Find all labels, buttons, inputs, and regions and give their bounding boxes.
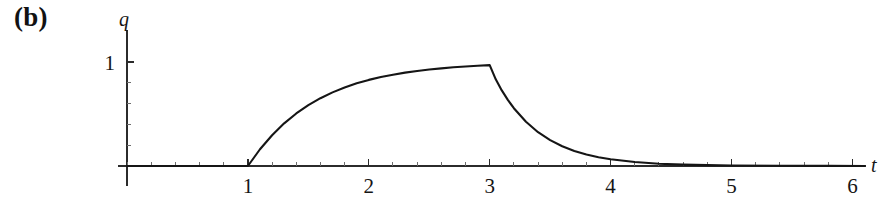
axes-group (118, 30, 866, 186)
x-tick-label: 5 (726, 174, 737, 198)
x-tick-label: 6 (847, 174, 858, 198)
y-axis-ticks (127, 62, 134, 145)
plot-area: 123456 1 t q (0, 0, 896, 208)
y-axis-label: q (119, 8, 129, 31)
x-axis-tick-labels: 123456 (243, 174, 858, 198)
y-axis-tick-labels: 1 (105, 51, 116, 75)
x-tick-label: 4 (605, 174, 616, 198)
x-tick-label: 1 (243, 174, 254, 198)
data-curve-q (127, 65, 864, 166)
x-tick-label: 2 (364, 174, 375, 198)
figure-panel: (b) 123456 1 t q (0, 0, 896, 208)
y-tick-label: 1 (105, 51, 116, 75)
x-tick-label: 3 (484, 174, 495, 198)
x-axis-label: t (871, 154, 877, 176)
